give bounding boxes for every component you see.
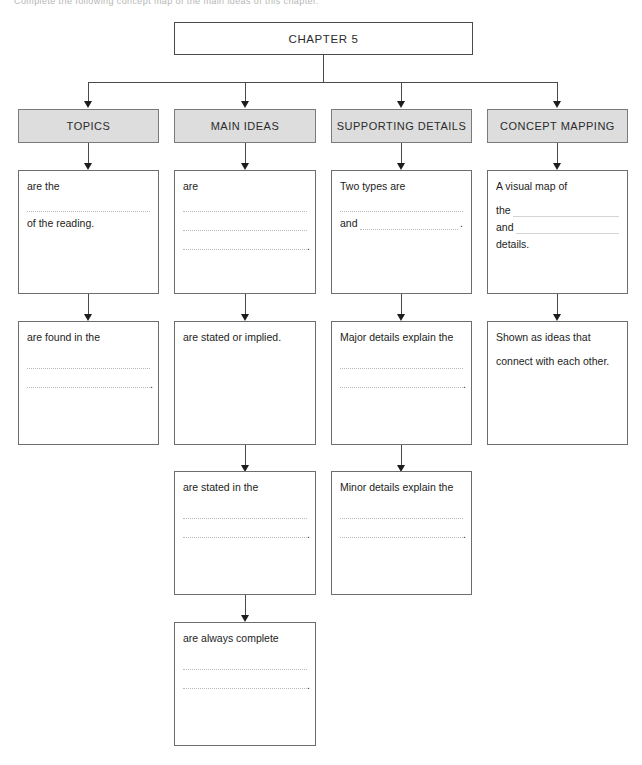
line-text: Major details explain the xyxy=(340,331,463,344)
header-box-concept-mapping: CONCEPT MAPPING xyxy=(487,109,628,143)
cropped-caption: Complete the following concept map of th… xyxy=(14,0,624,8)
arrow-topics-r2 xyxy=(84,314,92,321)
line-text: are always complete xyxy=(183,632,307,645)
content-box-concept-mapping-2: Shown as ideas that connect with each ot… xyxy=(487,321,628,445)
header-box-main-ideas: MAIN IDEAS xyxy=(174,109,316,143)
connector-bus xyxy=(88,82,558,83)
content-box-concept-mapping-1: A visual map of the and details. xyxy=(487,170,628,294)
line-blank[interactable] xyxy=(183,505,307,519)
connector-bus-drop-2 xyxy=(245,82,246,103)
line-blank[interactable] xyxy=(183,656,307,670)
line-text: connect with each other. xyxy=(496,355,619,368)
line-blank[interactable] xyxy=(340,524,463,538)
arrow-supporting-details-r1 xyxy=(397,163,405,170)
arrow-concept-mapping-r2 xyxy=(553,314,561,321)
root-box-chapter-5: CHAPTER 5 xyxy=(174,22,473,55)
line-blank[interactable] xyxy=(27,355,150,369)
line-text: details. xyxy=(496,238,619,251)
content-box-supporting-details-3: Minor details explain the xyxy=(331,471,472,595)
inline-rule[interactable] xyxy=(360,218,459,230)
content-box-topics-2: are found in the xyxy=(18,321,159,445)
header-label-supporting-details: SUPPORTING DETAILS xyxy=(337,120,467,132)
inline-period: . xyxy=(460,217,463,230)
content-box-supporting-details-1: Two types are and . xyxy=(331,170,472,294)
line-inline-blank[interactable]: and . xyxy=(340,217,463,230)
inline-rule[interactable] xyxy=(516,222,619,234)
inline-lead: and xyxy=(340,217,358,230)
inline-lead: the xyxy=(496,204,511,217)
line-text: are stated or implied. xyxy=(183,331,307,344)
arrow-topics-r1 xyxy=(84,163,92,170)
line-text: are the xyxy=(27,180,150,193)
content-box-supporting-details-2: Major details explain the xyxy=(331,321,472,445)
line-blank[interactable] xyxy=(27,198,150,212)
line-text: Minor details explain the xyxy=(340,481,463,494)
header-label-topics: TOPICS xyxy=(67,120,111,132)
line-text: Two types are xyxy=(340,180,463,193)
content-box-main-ideas-1: are xyxy=(174,170,316,294)
line-text: of the reading. xyxy=(27,217,150,230)
arrow-main-ideas-r4 xyxy=(241,615,249,622)
line-text: Shown as ideas that xyxy=(496,331,619,344)
line-text: are xyxy=(183,180,307,193)
content-box-main-ideas-3: are stated in the xyxy=(174,471,316,595)
content-box-topics-1: are the of the reading. xyxy=(18,170,159,294)
inline-rule[interactable] xyxy=(513,205,619,217)
line-inline-blank[interactable]: the xyxy=(496,204,619,217)
line-blank[interactable] xyxy=(183,217,307,231)
connector-root-trunk xyxy=(323,55,324,82)
inline-lead: and xyxy=(496,221,514,234)
connector-bus-drop-3 xyxy=(401,82,402,103)
line-blank[interactable] xyxy=(183,524,307,538)
line-blank[interactable] xyxy=(340,374,463,388)
arrow-main-ideas-r1 xyxy=(241,163,249,170)
header-box-supporting-details: SUPPORTING DETAILS xyxy=(331,109,472,143)
line-text: are stated in the xyxy=(183,481,307,494)
connector-bus-drop-4 xyxy=(557,82,558,103)
header-label-main-ideas: MAIN IDEAS xyxy=(211,120,280,132)
line-blank[interactable] xyxy=(183,198,307,212)
line-blank[interactable] xyxy=(340,505,463,519)
content-box-main-ideas-4: are always complete xyxy=(174,622,316,746)
header-box-topics: TOPICS xyxy=(18,109,159,143)
arrow-main-ideas-r2 xyxy=(241,314,249,321)
connector-bus-drop-1 xyxy=(88,82,89,103)
arrow-to-topics-header xyxy=(84,101,92,108)
line-text: A visual map of xyxy=(496,180,619,193)
line-text: are found in the xyxy=(27,331,150,344)
arrow-to-supporting-details-header xyxy=(397,101,405,108)
line-blank[interactable] xyxy=(340,198,463,212)
line-blank[interactable] xyxy=(27,374,150,388)
arrow-to-main-ideas-header xyxy=(241,101,249,108)
line-blank[interactable] xyxy=(183,675,307,689)
arrow-to-concept-mapping-header xyxy=(553,101,561,108)
arrow-supporting-details-r2 xyxy=(397,314,405,321)
line-inline-blank[interactable]: and xyxy=(496,221,619,234)
arrow-concept-mapping-r1 xyxy=(553,163,561,170)
root-label: CHAPTER 5 xyxy=(289,33,359,45)
line-blank[interactable] xyxy=(183,236,307,250)
line-blank[interactable] xyxy=(340,355,463,369)
concept-map-diagram: Complete the following concept map of th… xyxy=(0,0,642,765)
content-box-main-ideas-2: are stated or implied. xyxy=(174,321,316,445)
header-label-concept-mapping: CONCEPT MAPPING xyxy=(500,120,615,132)
